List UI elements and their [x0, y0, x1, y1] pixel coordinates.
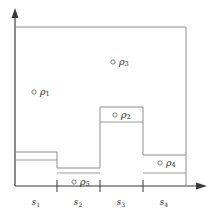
rho-1-marker-icon	[32, 90, 36, 94]
rho-1-label: ρ1	[39, 86, 50, 99]
rho-3-label: ρ3	[118, 56, 129, 69]
tick-label-s4: s4	[160, 197, 168, 208]
rho-2-label: ρ2	[120, 109, 131, 122]
tick-label-s2: s2	[74, 197, 82, 208]
rho-4-marker-icon	[158, 161, 162, 165]
horizontal-axis-arrow-icon	[196, 182, 207, 189]
step-function-outline	[15, 107, 186, 168]
rho-2-marker-icon	[113, 113, 117, 117]
rho-4-label: ρ4	[165, 157, 176, 170]
step-function-figure: s1 s2 s3 s4 ρ1 ρ3 ρ2 ρ4 ρ5	[0, 0, 213, 221]
figure-container: s1 s2 s3 s4 ρ1 ρ3 ρ2 ρ4 ρ5	[0, 0, 213, 221]
tick-label-s1: s1	[32, 197, 40, 208]
rho-5-label: ρ5	[79, 176, 90, 189]
rho-5-marker-icon	[72, 180, 76, 184]
tick-label-s3: s3	[117, 197, 125, 208]
vertical-axis-arrow-icon	[12, 8, 19, 18]
rho-3-marker-icon	[111, 60, 115, 64]
